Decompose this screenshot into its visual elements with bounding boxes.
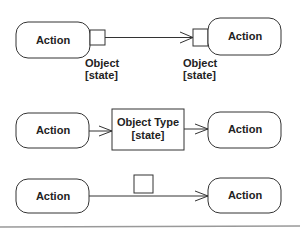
action-label: Action [36,190,71,202]
row-object-node: Action Object Type [state] Action [16,109,281,150]
input-pin [193,29,208,46]
object-state-label: [state] [131,129,164,141]
action-label: Action [228,189,263,201]
action-label: Action [228,30,263,42]
row-pins: Action Action Object [state] Object [sta… [16,18,281,81]
pin-label-state: [state] [183,69,216,81]
action-label: Action [228,123,263,135]
bottom-divider [0,226,300,227]
standalone-pin [134,175,153,193]
action-label: Action [36,124,71,136]
pin-label-state: [state] [85,69,118,81]
action-label: Action [36,34,71,46]
pin-label: Object [183,57,218,69]
row-standalone-pin: Action Action [16,175,281,213]
object-flow-diagram: Action Action Object [state] Object [sta… [0,0,300,230]
pin-label: Object [85,57,120,69]
output-pin [90,30,105,45]
object-type-label: Object Type [117,116,179,128]
